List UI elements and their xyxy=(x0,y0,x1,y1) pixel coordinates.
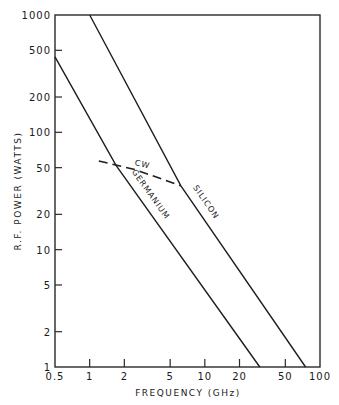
y-tick-label: 200 xyxy=(29,92,51,103)
y-axis-ticks: 1251020501002005001000 xyxy=(22,10,62,373)
x-tick-label: 50 xyxy=(278,371,293,382)
x-tick-label: 1 xyxy=(86,371,93,382)
y-tick-label: 10 xyxy=(36,245,51,256)
y-tick-label: 2 xyxy=(44,327,51,338)
curve-labels: SILICONGERMANIUMCW xyxy=(130,158,221,221)
curves xyxy=(55,15,306,367)
x-tick-label: 20 xyxy=(232,371,247,382)
silicon-label: SILICON xyxy=(191,184,221,221)
y-tick-label: 50 xyxy=(36,163,51,174)
x-tick-label: 10 xyxy=(197,371,212,382)
y-axis-title: R.F. POWER (WATTS) xyxy=(13,132,23,251)
chart: 0.5125102050100 1251020501002005001000 F… xyxy=(0,0,339,405)
x-tick-label: 100 xyxy=(309,371,331,382)
y-tick-label: 100 xyxy=(29,127,51,138)
x-axis-title: FREQUENCY (GHz) xyxy=(135,388,241,398)
y-tick-label: 1000 xyxy=(22,10,51,21)
y-tick-label: 500 xyxy=(29,45,51,56)
x-tick-label: 5 xyxy=(166,371,173,382)
x-axis-ticks: 0.5125102050100 xyxy=(46,359,332,382)
y-tick-label: 1 xyxy=(44,362,51,373)
plot-border xyxy=(55,15,320,367)
germanium-curve xyxy=(55,57,260,367)
y-tick-label: 20 xyxy=(36,209,51,220)
plot-frame xyxy=(55,15,320,367)
y-tick-label: 5 xyxy=(44,280,51,291)
x-tick-label: 2 xyxy=(121,371,128,382)
